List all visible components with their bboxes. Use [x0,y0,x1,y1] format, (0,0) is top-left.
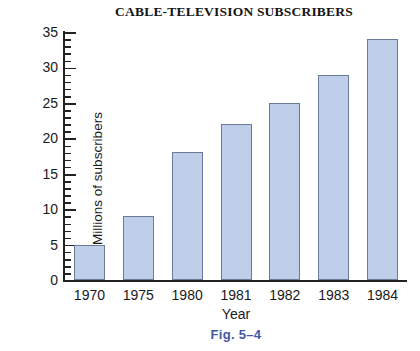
y-axis-tick-label: 35 [10,24,58,40]
figure-caption: Fig. 5–4 [64,327,408,342]
y-axis-tick-label: 5 [10,237,58,253]
y-axis-major-tick [65,280,76,282]
y-axis-tick-label: 25 [10,95,58,111]
x-axis-tick-label: 1984 [353,287,413,303]
x-axis-title: Year [64,306,408,322]
y-axis-tick-label: 0 [10,272,58,288]
bar-1980 [172,152,203,280]
y-axis-tick-label: 30 [10,59,58,75]
bar-1970 [74,245,105,280]
bar-series [65,33,407,280]
bar-1975 [123,216,154,280]
bar-1981 [221,124,252,280]
y-axis-tick-label: 10 [10,201,58,217]
x-axis-line [63,280,407,282]
y-axis-tick-label: 15 [10,166,58,182]
chart-title: CABLE-TELEVISION SUBSCRIBERS [60,4,408,20]
bar-1983 [318,75,349,280]
y-axis-tick-label: 20 [10,130,58,146]
figure-container: CABLE-TELEVISION SUBSCRIBERS 05101520253… [0,0,420,351]
bar-1982 [269,103,300,280]
bar-1984 [367,39,398,280]
